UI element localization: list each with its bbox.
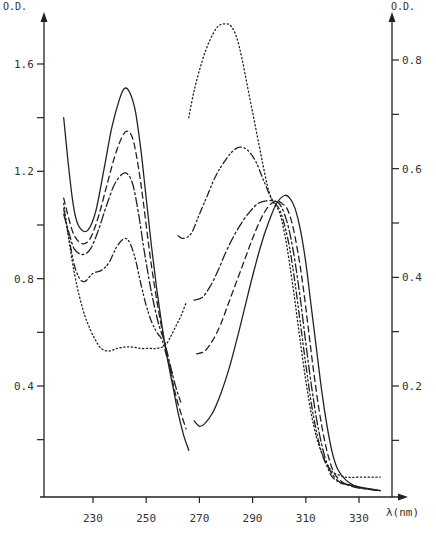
spectral-curves: [64, 24, 381, 491]
left-axis-title: O.D.: [3, 1, 27, 12]
x-tick-label: 290: [243, 512, 263, 525]
right-tick-label: 0.2: [402, 380, 422, 393]
left-axis-arrow-icon: [41, 12, 48, 22]
right-tick-label: 0.6: [402, 163, 422, 176]
curve-dotted: [64, 204, 186, 352]
left-tick-label: 0.8: [14, 273, 34, 286]
x-tick-label: 310: [296, 512, 316, 525]
curve-solid: [64, 88, 189, 450]
curve-long-dash-dot: [194, 201, 380, 491]
curve-solid: [194, 195, 380, 490]
curve-long-dash-dot: [64, 173, 181, 402]
x-axis-arrow-icon: [398, 494, 408, 501]
right-axis-title: O.D.: [391, 1, 415, 12]
right-axis-arrow-icon: [389, 12, 396, 22]
curve-dash-dot-dot: [178, 147, 380, 491]
right-tick-label: 0.4: [402, 271, 422, 284]
left-axis-ticks: 0.40.81.21.6: [14, 58, 44, 440]
x-tick-label: 270: [189, 512, 209, 525]
absorption-spectra-chart: O.D. 0.40.81.21.6 O.D. 0.20.40.60.8 λ(nm…: [0, 0, 436, 535]
x-axis-title: λ(nm): [386, 506, 419, 519]
x-tick-label: 330: [349, 512, 369, 525]
right-tick-label: 0.8: [402, 54, 422, 67]
curve-dash-dot-dot: [64, 209, 173, 375]
x-tick-label: 230: [83, 512, 103, 525]
left-tick-label: 1.2: [14, 165, 34, 178]
left-tick-label: 0.4: [14, 380, 34, 393]
curve-dotted: [189, 24, 380, 478]
x-axis-ticks: 230250270290310330: [83, 497, 369, 525]
x-tick-label: 250: [136, 512, 156, 525]
x-axis: λ(nm) 230250270290310330: [40, 494, 419, 526]
right-y-axis: O.D. 0.20.40.60.8: [389, 1, 423, 497]
right-axis-ticks: 0.20.40.60.8: [392, 54, 422, 440]
left-y-axis: O.D. 0.40.81.21.6: [3, 1, 48, 497]
curve-dashed: [64, 131, 186, 429]
left-tick-label: 1.6: [14, 58, 34, 71]
